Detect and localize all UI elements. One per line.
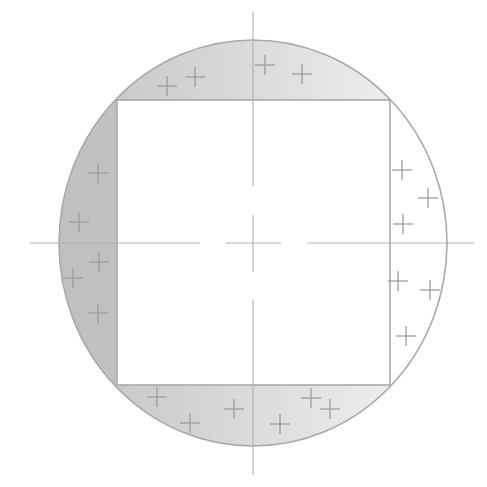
plus-icon	[392, 160, 412, 180]
plus-icon	[418, 188, 438, 208]
plus-icon	[396, 326, 416, 346]
plus-icon	[420, 280, 440, 300]
right-segment-markers	[388, 160, 440, 346]
diagram-canvas	[0, 0, 487, 487]
plus-icon	[388, 271, 408, 291]
circle-square-diagram	[0, 0, 487, 487]
plus-icon	[393, 214, 413, 234]
